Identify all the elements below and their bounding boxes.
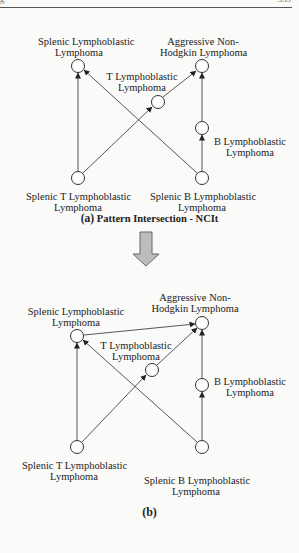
node-b-aggressive-nhl [196,317,209,330]
down-arrow-icon [133,232,159,266]
node-b-splenic-lymphoblastic [71,330,84,343]
label-a-b-lymphoblastic: B Lymphoblastic Lymphoma [210,136,290,158]
node-a-t-lymphoblastic [152,96,165,109]
label-b-splenic-t: Splenic T Lymphoblastic Lymphoma [22,460,126,482]
caption-b: (b) [0,505,299,520]
label-a-splenic-t: Splenic T Lymphoblastic Lymphoma [26,191,130,213]
edge-b-splenicT-to-tLL [82,375,146,442]
node-b-splenic-t [71,441,84,454]
label-a-splenic-b: Splenic B Lymphoblastic Lymphoma [150,191,254,213]
node-b-splenic-b [196,441,209,454]
caption-a-tag: (a) [81,212,94,224]
node-a-b-lymphoblastic [196,122,209,135]
edge-a-splenicT-to-tLL [83,107,152,173]
node-b-b-lymphoblastic [196,379,209,392]
node-a-aggressive-nhl [196,60,209,73]
label-b-splenic-lymphoblastic: Splenic Lymphoblastic Lymphoma [24,306,128,328]
label-b-b-lymphoblastic: B Lymphoblastic Lymphoma [210,376,290,398]
label-a-splenic-lymphoblastic: Splenic Lymphoblastic Lymphoma [38,36,120,58]
label-b-t-lymphoblastic: T Lymphoblastic Lymphoma [96,340,176,362]
node-a-splenic-t [72,172,85,185]
label-b-aggressive-nhl: Aggressive Non- Hodgkin Lymphoma [150,292,240,314]
caption-a-text: Pattern Intersection - NCIt [97,213,219,224]
node-a-splenic-b [196,172,209,185]
label-a-t-lymphoblastic: T Lymphoblastic Lymphoma [102,71,182,93]
node-b-t-lymphoblastic [146,364,159,377]
label-b-splenic-b: Splenic B Lymphoblastic Lymphoma [144,475,248,497]
node-a-splenic-lymphoblastic [72,60,85,73]
label-a-aggressive-nhl: Aggressive Non- Hodgkin Lymphoma [160,36,246,58]
caption-a: (a) Pattern Intersection - NCIt [0,212,299,224]
